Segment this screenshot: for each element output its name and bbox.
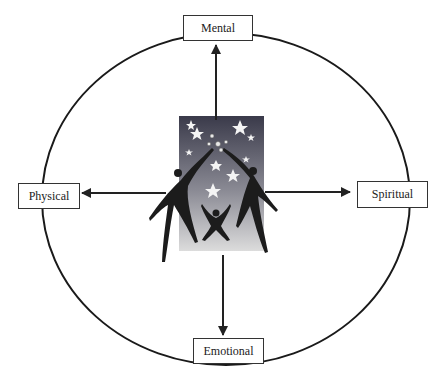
node-physical: Physical xyxy=(18,183,80,209)
node-mental: Mental xyxy=(183,15,253,41)
node-spiritual: Spiritual xyxy=(357,181,428,208)
node-emotional: Emotional xyxy=(193,338,264,364)
center-image xyxy=(149,116,278,262)
wellness-diagram: Mental Physical Spiritual Emotional xyxy=(0,0,440,382)
